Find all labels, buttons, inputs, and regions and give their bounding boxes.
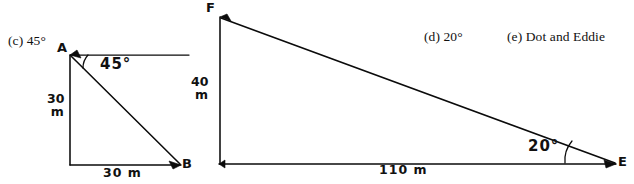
worksheet-canvas: (c) 45° (d) 20° (e) Dot and Eddie A B 45… bbox=[0, 0, 634, 184]
dimension-label-base-110m: 110 m bbox=[379, 164, 427, 177]
dimension-label-vertical-40m: 40 m bbox=[191, 76, 208, 102]
dimension-unit: m bbox=[195, 89, 208, 102]
vertex-label-e: E bbox=[618, 155, 627, 168]
vertex-label-f: F bbox=[206, 1, 215, 14]
angle-label-20: 20° bbox=[528, 139, 559, 154]
triangle-diagram-fe bbox=[0, 0, 634, 184]
